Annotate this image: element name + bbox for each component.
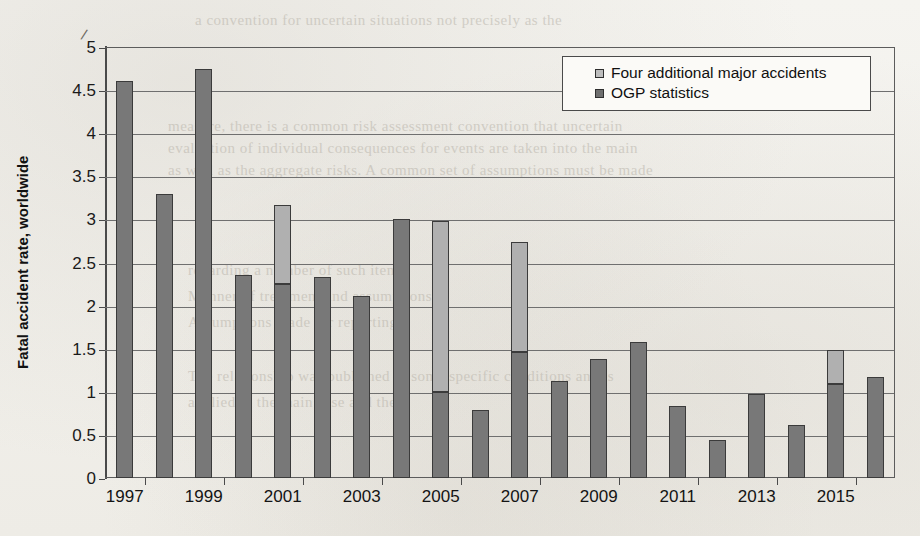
x-axis-labels: 1997199920012003200520072009201120132015 (105, 487, 895, 513)
y-axis-tick-label: 1 (87, 383, 96, 403)
y-axis-tick-label: 4.5 (72, 81, 96, 101)
bar-segment-ogp (353, 296, 370, 478)
y-axis-tick-label: 2 (87, 297, 96, 317)
x-axis-tick (224, 478, 225, 485)
bar-segment-ogp (432, 392, 449, 478)
y-axis-tick-label: 1.5 (72, 340, 96, 360)
bar-2005 (432, 47, 449, 478)
bar-segment-ogp (472, 410, 489, 478)
bar-2006 (472, 47, 489, 478)
x-axis-label-2011: 2011 (659, 487, 696, 507)
bars-layer (105, 47, 895, 478)
bar-2011 (669, 47, 686, 478)
x-axis-label-2007: 2007 (501, 487, 539, 507)
bar-2002 (314, 47, 331, 478)
bar-1998 (156, 47, 173, 478)
bar-segment-ogp (748, 394, 765, 478)
x-axis-tick (303, 478, 304, 485)
bar-segment-ogp (116, 81, 133, 478)
x-axis-tick (461, 478, 462, 485)
bar-2014 (788, 47, 805, 478)
x-axis-label-2013: 2013 (738, 487, 776, 507)
bar-2009 (590, 47, 607, 478)
bar-segment-extra (274, 205, 291, 284)
bar-2007 (511, 47, 528, 478)
bar-segment-ogp (235, 275, 252, 478)
x-axis-tick (777, 478, 778, 485)
bar-segment-extra (432, 221, 449, 392)
y-axis-tick-label: 4 (87, 124, 96, 144)
fatal-accident-rate-bar-chart: / Fatal accident rate, worldwide 00.511.… (0, 0, 920, 536)
bar-segment-ogp (393, 219, 410, 478)
bar-segment-ogp (314, 277, 331, 478)
bar-segment-ogp (551, 381, 568, 478)
chart-legend: Four additional major accidents OGP stat… (562, 56, 871, 111)
bar-2008 (551, 47, 568, 478)
bar-segment-ogp (195, 69, 212, 478)
bar-2012 (709, 47, 726, 478)
y-axis-tick-label: 0 (87, 469, 96, 489)
x-axis-tick (698, 478, 699, 485)
bar-segment-ogp (867, 377, 884, 478)
legend-item-ogp-statistics: OGP statistics (563, 83, 870, 103)
y-axis-tick-label: 3 (87, 210, 96, 230)
bar-segment-ogp (274, 284, 291, 478)
x-axis-tick (382, 478, 383, 485)
x-axis-tick (619, 478, 620, 485)
legend-swatch-icon (595, 89, 604, 98)
y-axis-tick-label: 5 (87, 38, 96, 58)
y-axis-title: Fatal accident rate, worldwide (10, 47, 34, 478)
x-axis-ticks (105, 478, 895, 486)
bar-2003 (353, 47, 370, 478)
x-axis-label-2009: 2009 (580, 487, 618, 507)
legend-label: OGP statistics (611, 84, 709, 102)
y-axis-tick-label: 2.5 (72, 254, 96, 274)
x-axis-tick (540, 478, 541, 485)
bar-2000 (235, 47, 252, 478)
x-axis-label-2001: 2001 (264, 487, 302, 507)
legend-item-four-additional-major-accidents: Four additional major accidents (563, 63, 870, 83)
bar-2015 (827, 47, 844, 478)
bar-2010 (630, 47, 647, 478)
bar-segment-extra (827, 350, 844, 384)
y-axis-tick-label: 3.5 (72, 167, 96, 187)
bar-segment-ogp (156, 194, 173, 478)
x-axis-label-1999: 1999 (185, 487, 223, 507)
bar-2013 (748, 47, 765, 478)
bar-segment-ogp (788, 425, 805, 478)
bar-1999 (195, 47, 212, 478)
x-axis-label-1997: 1997 (106, 487, 144, 507)
bar-segment-ogp (709, 440, 726, 478)
bar-segment-ogp (827, 384, 844, 478)
bar-2001 (274, 47, 291, 478)
bar-segment-ogp (511, 352, 528, 478)
bar-2016 (867, 47, 884, 478)
bar-segment-extra (511, 242, 528, 352)
bar-segment-ogp (590, 359, 607, 478)
x-axis-tick (145, 478, 146, 485)
legend-swatch-icon (595, 69, 604, 78)
x-axis-label-2003: 2003 (343, 487, 381, 507)
bar-segment-ogp (669, 406, 686, 478)
y-axis-tick-label: 0.5 (72, 426, 96, 446)
bar-1997 (116, 47, 133, 478)
bar-segment-ogp (630, 342, 647, 478)
x-axis-label-2005: 2005 (422, 487, 460, 507)
legend-label: Four additional major accidents (611, 64, 826, 82)
x-axis-tick (856, 478, 857, 485)
bar-2004 (393, 47, 410, 478)
x-axis-label-2015: 2015 (817, 487, 855, 507)
